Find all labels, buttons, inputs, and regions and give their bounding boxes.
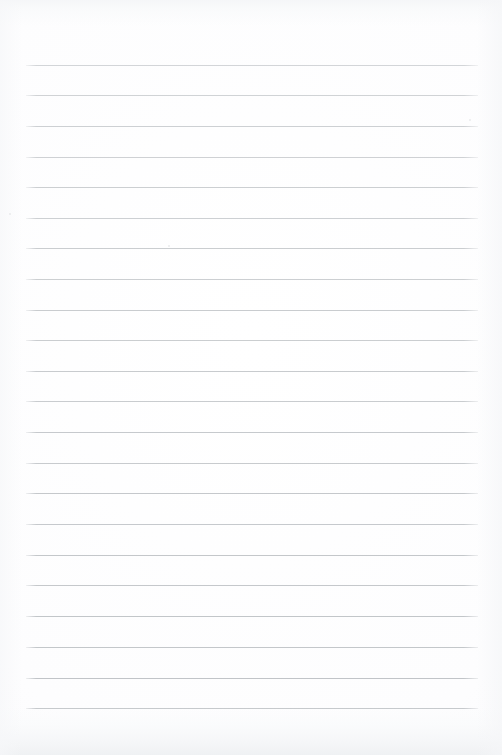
scanned-page [0,0,502,755]
rule-line [26,616,478,617]
rule-line [26,218,478,219]
rule-line [26,678,478,679]
rule-line [26,157,478,158]
rule-line [26,432,478,433]
rule-line [26,401,478,402]
ruled-lines-layer [0,0,502,755]
rule-line [26,126,478,127]
rule-line [26,279,478,280]
rule-line [26,65,478,66]
rule-line [26,708,478,709]
rule-line [26,555,478,556]
rule-line [26,524,478,525]
rule-line [26,371,478,372]
rule-line [26,585,478,586]
rule-line [26,187,478,188]
rule-line [26,463,478,464]
rule-line [26,95,478,96]
rule-line [26,647,478,648]
rule-line [26,248,478,249]
rule-line [26,310,478,311]
rule-line [26,340,478,341]
rule-line [26,493,478,494]
